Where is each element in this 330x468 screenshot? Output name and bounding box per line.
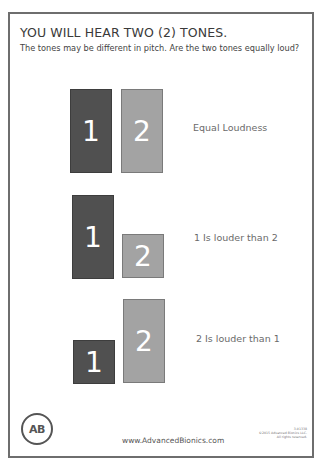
tone-1-bar: 1 (73, 340, 115, 384)
page-title: YOU WILL HEAR TWO (2) TONES. (20, 25, 227, 40)
ab-logo-icon: AB (21, 413, 53, 445)
row-label-2-louder: 2 Is louder than 1 (196, 333, 280, 344)
logo-text: AB (29, 423, 45, 436)
tone-number: 1 (84, 221, 102, 254)
tone-1-bar: 1 (70, 89, 112, 173)
row-label-1-louder: 1 Is louder than 2 (194, 232, 278, 243)
tone-2-bar: 2 (122, 234, 164, 278)
tone-number: 2 (134, 240, 152, 273)
tone-2-bar: 2 (121, 89, 163, 173)
tone-number: 1 (82, 115, 100, 148)
legal-notice: 3-01338 ©2015 Advanced Bionics LLC. All … (259, 427, 307, 440)
tone-2-bar: 2 (123, 299, 165, 383)
legal-line: All rights reserved. (259, 435, 307, 439)
row-label-equal-loudness: Equal Loudness (193, 122, 267, 133)
tone-number: 1 (85, 346, 103, 379)
tone-1-bar: 1 (72, 195, 114, 279)
page-subtitle: The tones may be different in pitch. Are… (20, 43, 299, 53)
tone-number: 2 (135, 325, 153, 358)
tone-number: 2 (133, 115, 151, 148)
website-link[interactable]: www.AdvancedBionics.com (122, 436, 224, 445)
